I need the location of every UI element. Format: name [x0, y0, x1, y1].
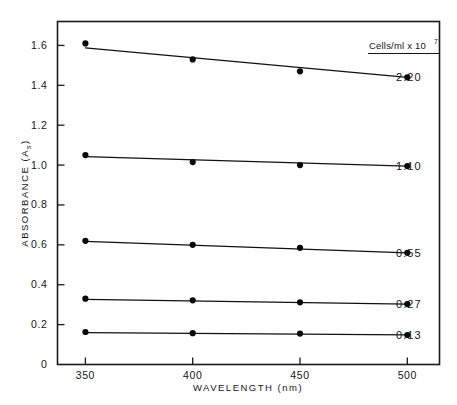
series-label-2.20: 2.20	[396, 71, 422, 83]
series-value-labels: 2.201.100.550.270.13	[396, 71, 422, 341]
data-series-group	[82, 40, 410, 338]
x-tick-label: 350	[76, 369, 95, 381]
x-axis-ticks	[85, 358, 407, 365]
absorbance-wavelength-figure: 350400450500 00.20.40.60.81.01.21.41.6 2…	[0, 0, 457, 405]
x-axis-tick-labels: 350400450500	[76, 369, 417, 381]
data-point	[82, 329, 88, 335]
series-label-1.10: 1.10	[396, 160, 422, 172]
series-0.55	[82, 238, 410, 256]
series-0.27	[82, 296, 410, 308]
series-label-0.13: 0.13	[396, 329, 422, 341]
y-axis-tick-labels: 00.20.40.60.81.01.21.41.6	[31, 39, 47, 370]
chart-svg: 350400450500 00.20.40.60.81.01.21.41.6 2…	[0, 0, 457, 405]
data-point	[297, 162, 303, 168]
legend-title-exponent: 7	[434, 38, 438, 45]
svg-text:ABSORBANCE (As): ABSORBANCE (As)	[19, 139, 32, 246]
plot-frame	[58, 22, 440, 365]
legend-header: Cells/ml x 10 7	[368, 38, 440, 54]
y-axis-title-main: ABSORBANCE (A	[19, 149, 30, 247]
data-point	[190, 159, 196, 165]
series-label-0.27: 0.27	[396, 298, 422, 310]
data-point	[82, 238, 88, 244]
series-2.20	[82, 40, 410, 80]
x-tick-label: 450	[290, 369, 309, 381]
legend-title: Cells/ml x 10	[369, 40, 426, 51]
y-tick-label: 0.6	[31, 238, 47, 250]
y-tick-label: 1.0	[31, 159, 47, 171]
data-point	[190, 56, 196, 62]
x-tick-label: 500	[398, 369, 417, 381]
y-tick-label: 0.4	[31, 278, 47, 290]
data-point	[297, 68, 303, 74]
data-point	[190, 242, 196, 248]
y-tick-label: 1.4	[31, 79, 47, 91]
data-point	[297, 299, 303, 305]
data-point	[190, 297, 196, 303]
data-point	[82, 152, 88, 158]
series-trend-line	[85, 299, 407, 304]
y-tick-label: 0.8	[31, 198, 47, 210]
data-point	[297, 330, 303, 336]
y-tick-label: 0.2	[31, 318, 47, 330]
y-tick-label: 1.6	[31, 39, 47, 51]
data-point	[297, 245, 303, 251]
data-point	[82, 40, 88, 46]
series-trend-line	[85, 48, 407, 78]
series-trend-line	[85, 333, 407, 335]
data-point	[190, 330, 196, 336]
y-axis-title: ABSORBANCE (As)	[19, 139, 32, 246]
series-1.10	[82, 152, 410, 169]
x-tick-label: 400	[183, 369, 202, 381]
y-axis-title-tail: )	[19, 139, 30, 144]
data-point	[82, 296, 88, 302]
series-trend-line	[85, 241, 407, 252]
y-tick-label: 1.2	[31, 119, 47, 131]
x-axis-title: WAVELENGTH (nm)	[193, 382, 303, 393]
series-0.13	[82, 329, 410, 338]
series-label-0.55: 0.55	[396, 247, 422, 259]
series-trend-line	[85, 157, 407, 166]
y-tick-label: 0	[41, 358, 47, 370]
y-axis-ticks	[58, 45, 65, 324]
